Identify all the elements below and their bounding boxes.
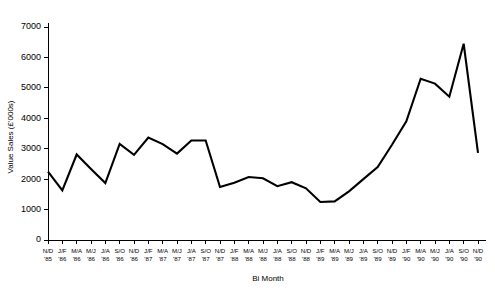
x-tick-label-month: S/O [114, 247, 125, 254]
x-tick-label-year: '86 [130, 255, 139, 262]
x-tick-label-year: '90 [445, 255, 454, 262]
x-tick-label-year: '89 [374, 255, 383, 262]
x-tick-label-year: '90 [460, 255, 469, 262]
x-tick-label-year: '89 [331, 255, 340, 262]
x-tick-label-month: S/O [458, 247, 469, 254]
x-tick-label-month: N/D [129, 247, 140, 254]
x-tick-label-year: '86 [87, 255, 96, 262]
x-tick-label-month: J/F [402, 247, 411, 254]
x-tick-label-year: '89 [359, 255, 368, 262]
x-tick-label-month: J/A [187, 247, 197, 254]
x-tick-label-year: '88 [259, 255, 268, 262]
y-tick-label: 1000 [21, 204, 41, 214]
line-chart: N/D'85J/F'86M/A'86M/J'86J/A'86S/O'86N/D'… [0, 0, 495, 291]
x-tick-label-month: N/D [387, 247, 398, 254]
axes-group [48, 23, 486, 240]
data-series-group [48, 44, 478, 202]
x-tick-label-year: '87 [216, 255, 225, 262]
y-tick-label: 6000 [21, 52, 41, 62]
x-tick-label-month: M/J [258, 247, 268, 254]
x-tick-label-month: N/D [473, 247, 484, 254]
x-tick-label-month: M/A [157, 247, 169, 254]
x-tick-label-month: M/J [86, 247, 96, 254]
x-tick-label-year: '88 [230, 255, 239, 262]
y-tick-label: 3000 [21, 143, 41, 153]
x-tick-label-month: J/A [273, 247, 283, 254]
x-tick-label-year: '90 [474, 255, 483, 262]
x-tick-label-month: J/F [316, 247, 325, 254]
chart-container: N/D'85J/F'86M/A'86M/J'86J/A'86S/O'86N/D'… [0, 0, 495, 291]
x-tick-label-year: '88 [302, 255, 311, 262]
x-axis-ticks [48, 240, 478, 244]
x-tick-label-month: J/A [101, 247, 111, 254]
x-tick-label-year: '90 [417, 255, 426, 262]
x-tick-label-year: '89 [345, 255, 354, 262]
x-tick-label-year: '85 [44, 255, 53, 262]
x-tick-label-month: N/D [215, 247, 226, 254]
y-tick-label: 7000 [21, 21, 41, 31]
x-tick-label-year: '87 [144, 255, 153, 262]
x-tick-label-month: S/O [200, 247, 211, 254]
y-axis-title: Value Sales (£'000s) [6, 100, 15, 173]
x-tick-label-year: '88 [245, 255, 254, 262]
x-tick-label-year: '87 [187, 255, 196, 262]
x-tick-label-year: '87 [173, 255, 182, 262]
x-tick-label-month: M/A [71, 247, 83, 254]
x-tick-label-year: '86 [101, 255, 110, 262]
x-tick-label-month: S/O [372, 247, 383, 254]
x-tick-label-month: N/D [301, 247, 312, 254]
value-sales-line [48, 44, 478, 202]
x-axis-title: Bi Month [252, 274, 284, 283]
x-tick-label-month: S/O [286, 247, 297, 254]
x-tick-label-year: '87 [202, 255, 211, 262]
x-tick-label-year: '87 [159, 255, 168, 262]
x-tick-label-month: M/J [172, 247, 182, 254]
x-axis-tick-labels: N/D'85J/F'86M/A'86M/J'86J/A'86S/O'86N/D'… [43, 247, 484, 262]
x-tick-label-month: J/F [144, 247, 153, 254]
y-axis-ticks [44, 27, 48, 240]
x-tick-label-month: J/F [230, 247, 239, 254]
y-tick-label: 5000 [21, 82, 41, 92]
x-tick-label-year: '89 [316, 255, 325, 262]
x-tick-label-year: '89 [388, 255, 397, 262]
x-tick-label-month: J/A [445, 247, 455, 254]
y-tick-label: 2000 [21, 174, 41, 184]
y-tick-label: 0 [36, 234, 41, 244]
x-tick-label-month: M/A [243, 247, 255, 254]
x-tick-label-month: M/J [344, 247, 354, 254]
x-tick-label-year: '88 [288, 255, 297, 262]
x-tick-label-month: J/F [58, 247, 67, 254]
x-tick-label-year: '86 [58, 255, 67, 262]
x-tick-label-year: '86 [116, 255, 125, 262]
y-tick-label: 4000 [21, 113, 41, 123]
x-tick-label-year: '88 [273, 255, 282, 262]
x-tick-label-month: N/D [43, 247, 54, 254]
x-tick-label-month: J/A [359, 247, 369, 254]
x-tick-label-year: '90 [402, 255, 411, 262]
x-tick-label-month: M/A [329, 247, 341, 254]
x-tick-label-year: '86 [73, 255, 82, 262]
y-axis-tick-labels: 01000200030004000500060007000 [21, 21, 41, 244]
x-tick-label-year: '90 [431, 255, 440, 262]
x-tick-label-month: M/J [430, 247, 440, 254]
x-tick-label-month: M/A [415, 247, 427, 254]
